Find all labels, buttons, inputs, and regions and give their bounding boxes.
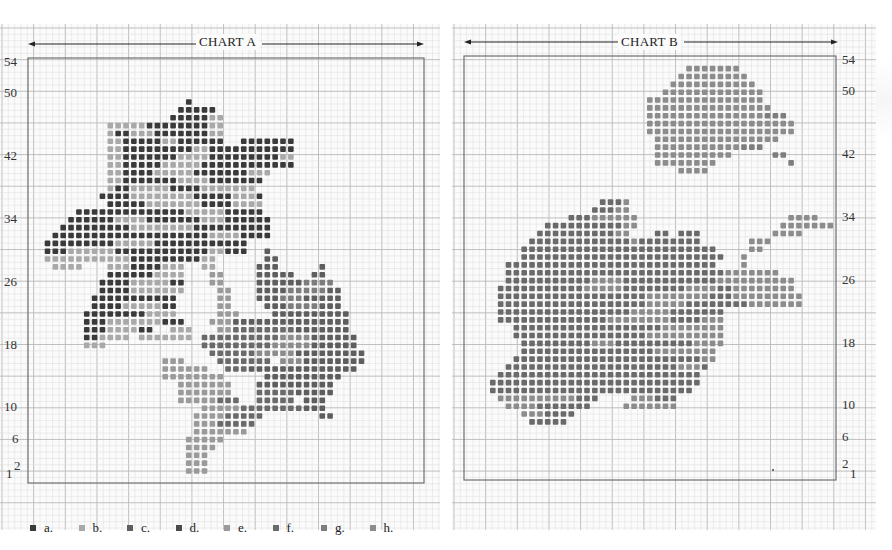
- row-label-6: 6: [842, 430, 849, 443]
- legend-label: f.: [287, 520, 295, 536]
- legend-swatch-d-icon: [176, 525, 182, 531]
- chart-a-title: CHART A: [196, 34, 259, 50]
- page-edge-shadow: [876, 60, 892, 140]
- legend-swatch-f-icon: [273, 525, 279, 531]
- row-label-1: 1: [850, 467, 857, 480]
- legend-label: a.: [44, 520, 53, 536]
- legend-swatch-c-icon: [127, 525, 133, 531]
- row-label-42: 42: [842, 147, 855, 160]
- row-label-6: 6: [12, 432, 19, 445]
- row-label-50: 50: [4, 86, 17, 99]
- row-label-26: 26: [842, 273, 855, 286]
- row-label-1: 1: [6, 467, 13, 480]
- chart-a-legend: a.b.c.d.e.f.g.h.: [30, 520, 418, 536]
- legend-swatch-g-icon: [321, 525, 327, 531]
- legend-item-g: g.: [321, 520, 370, 536]
- row-label-34: 34: [842, 210, 855, 223]
- legend-label: g.: [335, 520, 345, 536]
- chart-b-sheet: CHART B 54504234261810621: [452, 24, 876, 530]
- row-label-50: 50: [842, 84, 855, 97]
- legend-item-a: a.: [30, 520, 79, 536]
- row-label-54: 54: [4, 55, 17, 68]
- row-label-54: 54: [842, 53, 855, 66]
- legend-label: b.: [93, 520, 103, 536]
- row-label-2: 2: [14, 459, 21, 472]
- legend-item-e: e.: [224, 520, 273, 536]
- row-label-26: 26: [4, 275, 17, 288]
- row-label-18: 18: [842, 336, 855, 349]
- legend-item-b: b.: [79, 520, 128, 536]
- legend-swatch-b-icon: [79, 525, 85, 531]
- row-label-10: 10: [4, 400, 17, 413]
- legend-swatch-h-icon: [370, 525, 376, 531]
- legend-item-d: d.: [176, 520, 225, 536]
- legend-label: h.: [384, 520, 394, 536]
- legend-swatch-e-icon: [224, 525, 230, 531]
- chart-b-grid: [452, 24, 876, 530]
- chart-a-sheet: CHART A 54504234261810621 a.b.c.d.e.f.g.…: [0, 24, 440, 530]
- legend-label: c.: [141, 520, 150, 536]
- legend-label: e.: [238, 520, 247, 536]
- chart-b-title: CHART B: [618, 34, 681, 50]
- legend-item-c: c.: [127, 520, 176, 536]
- legend-label: d.: [190, 520, 200, 536]
- row-label-42: 42: [4, 149, 17, 162]
- legend-item-f: f.: [273, 520, 322, 536]
- row-label-2: 2: [842, 457, 849, 470]
- legend-item-h: h.: [370, 520, 419, 536]
- row-label-10: 10: [842, 398, 855, 411]
- legend-swatch-a-icon: [30, 525, 36, 531]
- row-label-34: 34: [4, 212, 17, 225]
- row-label-18: 18: [4, 338, 17, 351]
- chart-a-grid: [0, 24, 440, 530]
